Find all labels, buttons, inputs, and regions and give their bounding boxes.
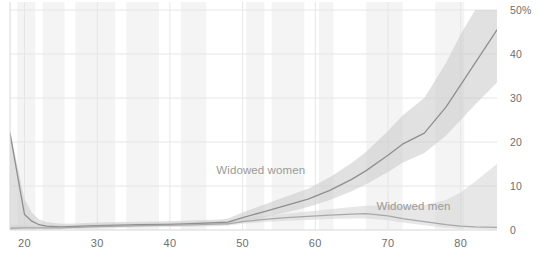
- series-label-widowed-men: Widowed men: [376, 201, 450, 213]
- background-stripe: [43, 2, 65, 230]
- background-stripes: [17, 2, 464, 230]
- y-axis-tick-label: 20: [510, 137, 522, 148]
- y-axis-tick-label: 40: [510, 49, 522, 60]
- series-label-widowed-women: Widowed women: [216, 165, 305, 177]
- y-axis-tick-label: 10: [510, 181, 522, 192]
- background-stripe: [366, 2, 402, 230]
- x-axis-tick-label: 70: [382, 238, 395, 249]
- chart-container: 01020304050% 20304050607080 Widowed wome…: [0, 0, 545, 261]
- line-chart-plot: [0, 0, 545, 261]
- background-stripe: [75, 2, 115, 230]
- x-axis-tick-label: 80: [454, 238, 467, 249]
- background-stripe: [246, 2, 264, 230]
- x-axis-tick-label: 40: [163, 238, 176, 249]
- background-stripe: [126, 2, 159, 230]
- x-axis-tick-label: 20: [18, 238, 31, 249]
- y-axis-tick-label: 50%: [510, 5, 532, 16]
- x-axis-tick-label: 30: [91, 238, 104, 249]
- y-axis-tick-label: 0: [510, 225, 516, 236]
- y-axis-tick-label: 30: [510, 93, 522, 104]
- x-axis-tick-label: 60: [309, 238, 322, 249]
- background-stripe: [181, 2, 206, 230]
- x-axis-tick-label: 50: [236, 238, 249, 249]
